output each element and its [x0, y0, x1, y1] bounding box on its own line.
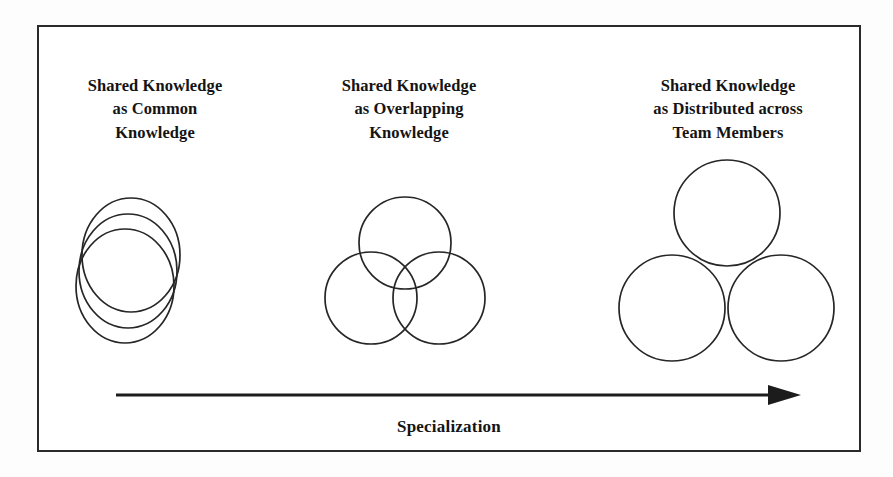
- diagram-overlapping-knowledge-venn: [305, 185, 515, 370]
- panel-title-line: Shared Knowledge: [588, 74, 868, 97]
- panel-title-distributed-knowledge: Shared Knowledge as Distributed across T…: [588, 74, 868, 144]
- panel-title-line: Shared Knowledge: [38, 74, 272, 97]
- specialization-arrow-icon: [110, 378, 810, 412]
- knowledge-circle: [325, 252, 417, 344]
- panel-title-line: as Overlapping: [292, 97, 526, 120]
- knowledge-circle: [728, 255, 834, 361]
- panel-title-line: Shared Knowledge: [292, 74, 526, 97]
- panel-title-line: Knowledge: [292, 121, 526, 144]
- panel-title-line: as Distributed across: [588, 97, 868, 120]
- panel-title-line: Knowledge: [38, 121, 272, 144]
- knowledge-circle: [359, 197, 451, 289]
- figure-root: Shared Knowledge as Common Knowledge Sha…: [0, 0, 893, 477]
- knowledge-circle: [619, 255, 725, 361]
- panel-title-overlapping-knowledge: Shared Knowledge as Overlapping Knowledg…: [292, 74, 526, 144]
- panel-title-line: as Common: [38, 97, 272, 120]
- knowledge-circle: [393, 252, 485, 344]
- panel-title-common-knowledge: Shared Knowledge as Common Knowledge: [38, 74, 272, 144]
- panel-title-line: Team Members: [588, 121, 868, 144]
- diagram-common-knowledge-circles: [60, 180, 240, 360]
- diagram-distributed-knowledge-circles: [600, 152, 850, 372]
- knowledge-circle: [79, 214, 177, 328]
- arrow-head: [768, 385, 801, 405]
- knowledge-circle: [674, 160, 780, 266]
- axis-label-specialization: Specialization: [37, 417, 861, 437]
